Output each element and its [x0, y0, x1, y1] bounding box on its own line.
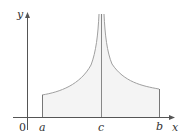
- x-axis-arrow-icon: [169, 115, 175, 120]
- tick-label-c: c: [98, 122, 104, 133]
- y-axis-arrow-icon: [25, 12, 30, 18]
- y-axis-label: y: [17, 9, 23, 20]
- plot-canvas: [0, 0, 185, 139]
- improper-integral-diagram: y x 0 a c b: [0, 0, 185, 139]
- tick-label-b: b: [156, 121, 163, 132]
- origin-label: 0: [19, 122, 26, 133]
- tick-label-a: a: [39, 122, 46, 133]
- x-axis-label: x: [172, 122, 178, 133]
- shaded-region: [42, 14, 159, 117]
